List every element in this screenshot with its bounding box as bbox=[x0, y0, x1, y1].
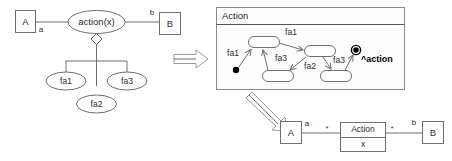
sub-action-label-fa3: fa3 bbox=[121, 76, 133, 86]
sub-action-label-fa1: fa1 bbox=[60, 76, 72, 86]
diagram-svg: A a action(x) B b fa1 fa3 bbox=[0, 0, 452, 161]
state-s2[interactable] bbox=[305, 46, 336, 57]
transform-arrow-right bbox=[174, 50, 208, 68]
left-use-case-model: A a action(x) B b fa1 fa3 bbox=[16, 8, 181, 113]
state-s3[interactable] bbox=[263, 71, 294, 82]
transition-label-fa3-right: fa3 bbox=[333, 55, 345, 65]
class-role-a-label: a bbox=[305, 119, 310, 128]
class-action-name: Action bbox=[351, 124, 375, 134]
role-b-label: b bbox=[150, 8, 155, 17]
initial-state-icon bbox=[233, 67, 239, 73]
class-b-label: B bbox=[430, 127, 436, 138]
class-a-label: A bbox=[288, 127, 295, 138]
final-state-annotation: ^action bbox=[361, 54, 393, 64]
figure-canvas: A a action(x) B b fa1 fa3 bbox=[0, 0, 452, 161]
actor-a-label: A bbox=[22, 16, 29, 27]
sub-action-label-fa2: fa2 bbox=[91, 99, 103, 109]
state-s1[interactable] bbox=[249, 37, 280, 48]
use-case-label: action(x) bbox=[78, 16, 114, 27]
transition-label-fa2: fa2 bbox=[304, 61, 316, 71]
transition-label-fa1-entry: fa1 bbox=[227, 48, 239, 58]
arrow-down-midline bbox=[249, 95, 278, 124]
state-machine-frame: Action ^action fa1 bbox=[217, 8, 405, 90]
class-role-b-label: b bbox=[412, 118, 417, 127]
multiplicity-right: * bbox=[391, 125, 394, 132]
final-state-dot-icon bbox=[353, 47, 359, 53]
multiplicity-left: * bbox=[326, 125, 329, 132]
state-s4[interactable] bbox=[321, 71, 352, 82]
aggregation-diamond-icon bbox=[91, 34, 102, 45]
transition-label-fa3-left: fa3 bbox=[275, 53, 287, 63]
role-a-label: a bbox=[39, 25, 44, 34]
state-machine-title: Action bbox=[222, 10, 248, 21]
transition-label-fa1-top: fa1 bbox=[285, 27, 297, 37]
class-model: A a * Action x * B b bbox=[281, 118, 444, 151]
actor-b-label: B bbox=[167, 18, 173, 29]
